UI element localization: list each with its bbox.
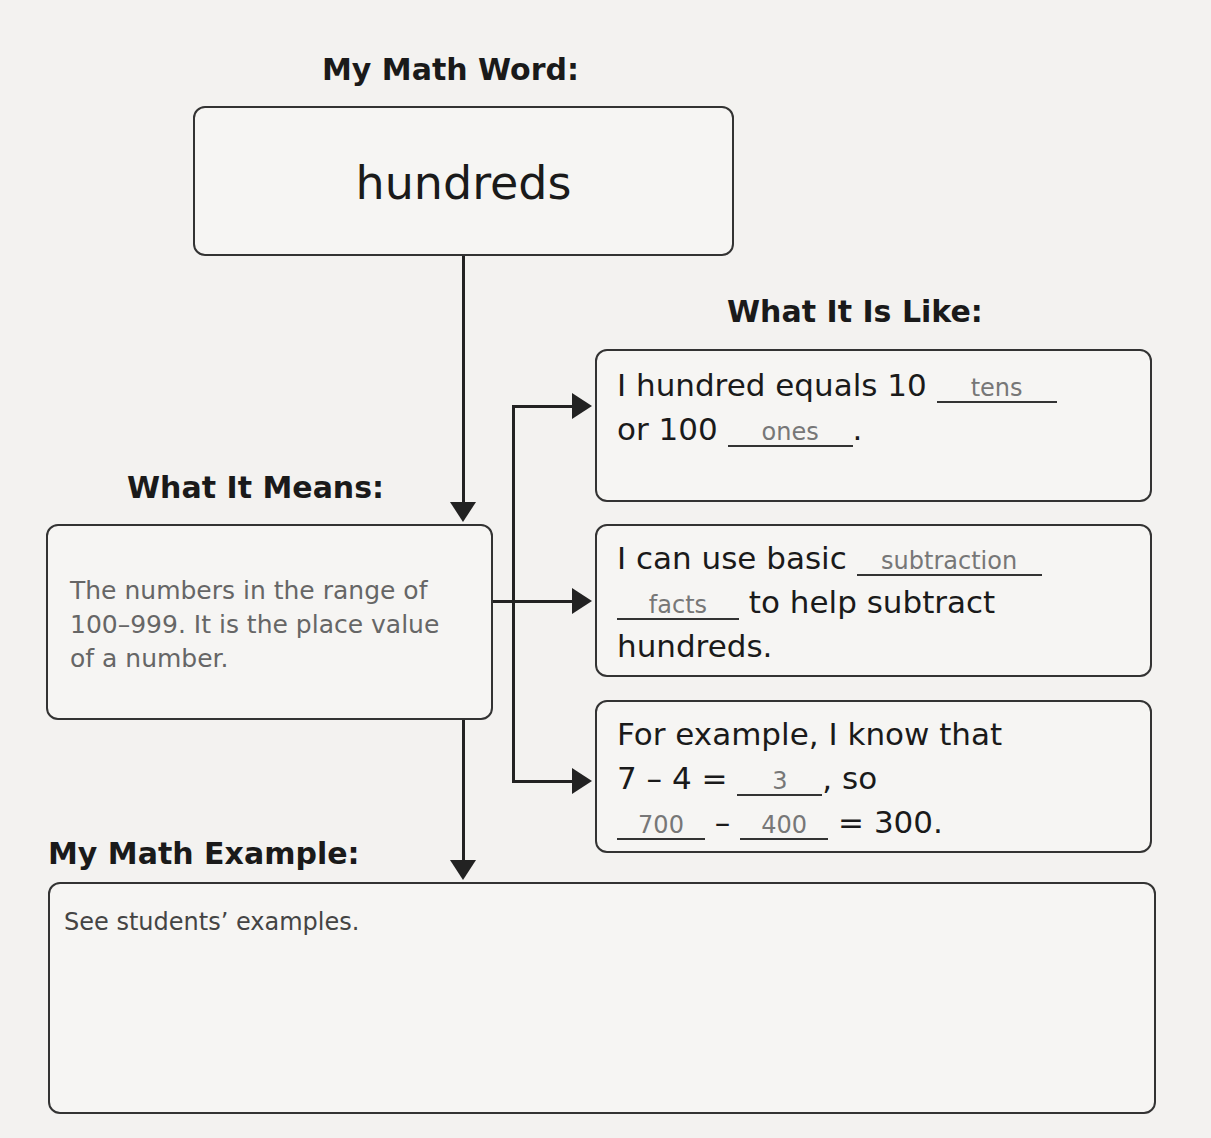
connector-line — [493, 600, 573, 603]
math-word: hundreds — [195, 156, 732, 210]
answer-blank: facts — [617, 592, 739, 620]
answer-blank: 400 — [740, 812, 828, 840]
answer-blank: 700 — [617, 812, 705, 840]
connector-line — [512, 405, 572, 408]
connector-line — [462, 256, 465, 506]
example-text: See students’ examples. — [50, 884, 1154, 960]
example-box: See students’ examples. — [48, 882, 1156, 1114]
like-box-3: For example, I know that 7 – 4 = 3, so 7… — [595, 700, 1152, 853]
like-box-2: I can use basic subtraction facts to hel… — [595, 524, 1152, 677]
like-box-1: I hundred equals 10 tens or 100 ones. — [595, 349, 1152, 502]
what-it-is-like-heading: What It Is Like: — [727, 294, 983, 329]
meaning-text: The numbers in the range of 100–999. It … — [48, 526, 491, 676]
my-math-example-heading: My Math Example: — [48, 836, 360, 871]
connector-line — [512, 780, 572, 783]
answer-blank: subtraction — [857, 548, 1042, 576]
meaning-box: The numbers in the range of 100–999. It … — [46, 524, 493, 720]
my-math-word-heading: My Math Word: — [322, 52, 579, 87]
arrow-right-icon — [572, 588, 592, 614]
arrow-right-icon — [572, 768, 592, 794]
what-it-means-heading: What It Means: — [127, 470, 384, 505]
arrow-down-icon — [450, 860, 476, 880]
arrow-right-icon — [572, 393, 592, 419]
connector-line — [462, 720, 465, 860]
answer-blank: tens — [937, 375, 1057, 403]
answer-blank: ones — [728, 419, 853, 447]
answer-blank: 3 — [737, 768, 822, 796]
math-word-box: hundreds — [193, 106, 734, 256]
connector-line — [512, 405, 515, 783]
arrow-down-icon — [450, 502, 476, 522]
